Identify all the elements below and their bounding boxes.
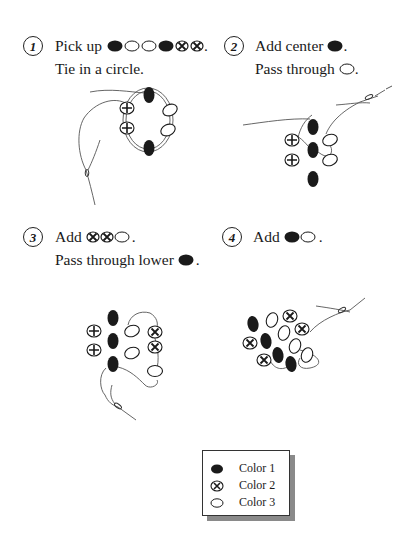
bead-color1-icon [210, 464, 224, 474]
legend-item-color-2: Color 2 [203, 478, 275, 493]
bead-color2-icon [210, 480, 224, 492]
legend-item-color-3: Color 3 [203, 495, 275, 510]
bead-color3-icon [210, 498, 224, 508]
color-legend: Color 1 Color 2 Color 3 [202, 450, 290, 516]
legend-item-color-1: Color 1 [203, 461, 275, 476]
